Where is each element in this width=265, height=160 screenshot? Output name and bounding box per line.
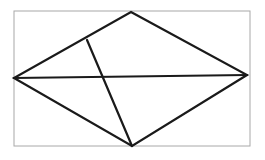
geometry-diagram — [0, 0, 265, 160]
cevian-segment-line — [87, 40, 132, 146]
figure-canvas — [0, 0, 265, 160]
quadrilateral-outline — [14, 12, 247, 146]
horizontal-diagonal-line — [14, 75, 247, 78]
